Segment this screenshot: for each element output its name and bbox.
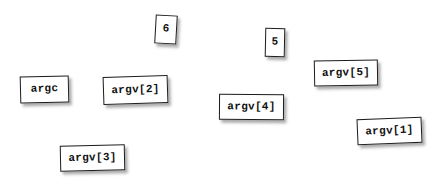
card-argv1-label: argv[1]	[365, 124, 414, 137]
card-value-5-label: 5	[271, 36, 278, 47]
card-argv2[interactable]: argv[2]	[103, 75, 169, 105]
card-value-6-label: 6	[162, 23, 170, 34]
card-argv3[interactable]: argv[3]	[60, 144, 126, 171]
card-argc[interactable]: argc	[20, 75, 70, 103]
card-argv1[interactable]: argv[1]	[356, 117, 422, 146]
card-argv2-label: argv[2]	[111, 83, 160, 96]
card-scene: argc argv[2] 6 5 argv[5] argv[4] argv[1]…	[0, 0, 446, 181]
card-argv5[interactable]: argv[5]	[314, 59, 378, 86]
card-argv4[interactable]: argv[4]	[219, 94, 284, 120]
card-argv5-label: argv[5]	[322, 67, 370, 79]
card-value-5[interactable]: 5	[265, 28, 286, 57]
card-value-6[interactable]: 6	[154, 14, 178, 44]
card-argc-label: argc	[31, 83, 59, 95]
card-argv4-label: argv[4]	[227, 101, 275, 112]
card-argv3-label: argv[3]	[68, 151, 117, 163]
